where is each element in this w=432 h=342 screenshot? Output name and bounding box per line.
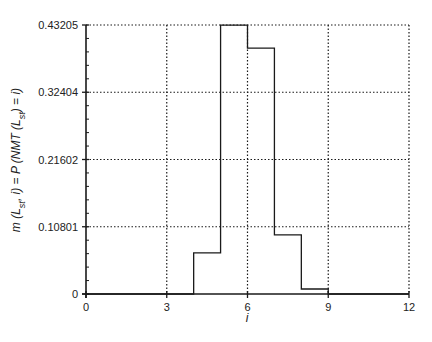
x-tick-label: 3 <box>164 301 170 313</box>
y-tick-label: 0 <box>72 288 78 300</box>
grid-lines <box>86 25 409 294</box>
y-axis-tick-labels: 00.108010.216020.324040.43205 <box>38 19 78 300</box>
ylabel-text: m (L <box>9 208 23 232</box>
x-tick-label: 12 <box>403 301 415 313</box>
ylabel-text: , i) = P (NMT (L <box>9 119 23 201</box>
x-axis-tick-labels: 036912 <box>83 301 415 313</box>
y-tick-label: 0.21602 <box>38 154 78 166</box>
axes <box>82 25 409 298</box>
x-axis-title: i <box>246 311 249 325</box>
x-tick-label: 0 <box>83 301 89 313</box>
y-tick-label: 0.32404 <box>38 86 78 98</box>
y-axis-title: m (Lst, i) = P (NMT (Lst) = i) <box>9 88 27 232</box>
ylabel-text: ) = i) <box>9 88 23 114</box>
y-tick-label: 0.43205 <box>38 19 78 31</box>
y-tick-label: 0.10801 <box>38 221 78 233</box>
x-tick-label: 9 <box>325 301 331 313</box>
step-histogram-chart: 00.108010.216020.324040.43205 036912 i m… <box>0 0 432 342</box>
